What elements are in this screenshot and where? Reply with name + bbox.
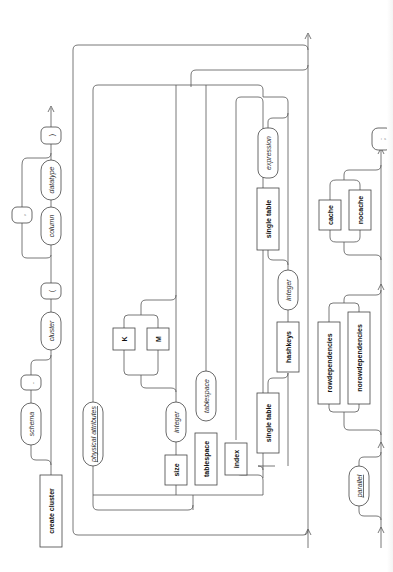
create-cluster-keyword: create cluster [40,475,62,547]
dot-symbol: . [21,375,41,390]
svg-text:tablespace: tablespace [203,441,211,477]
svg-text:integer: integer [285,279,293,301]
schema-nonterminal: schema [21,403,41,445]
norowdependencies-keyword: norowdependencies [348,312,370,404]
unit-m-keyword: M [147,328,169,350]
cluster-nonterminal: cluster [41,312,61,350]
page-edge-shadow [387,0,393,572]
row-3-clause: parallel rowdependencies norowdependenci… [318,128,392,548]
hashkeys-integer-nonterminal: integer [278,270,298,310]
svg-text:single table: single table [265,200,273,239]
create-cluster-railroad-diagram: create cluster schema . cluster ( column [0,0,393,572]
row-1-clause: create cluster schema . cluster ( column [12,106,62,547]
svg-text:cluster: cluster [48,320,55,341]
svg-text:rowdependencies: rowdependencies [326,333,334,392]
nocache-keyword: nocache [349,190,371,230]
svg-text:index: index [233,450,240,468]
row-2-clause: physical attributes size integer K M tab… [73,33,311,548]
tablespace-keyword: tablespace [195,433,217,485]
expression-nonterminal: expression [258,128,278,178]
svg-text:M: M [155,336,162,342]
svg-text:): ) [48,134,56,136]
rowdependencies-keyword: rowdependencies [318,322,340,404]
physical-attributes-nonterminal: physical attributes [83,402,103,466]
unit-k-keyword: K [113,328,135,350]
svg-text:create cluster: create cluster [48,488,55,534]
parallel-nonterminal: parallel [349,466,369,506]
svg-text:norowdependencies: norowdependencies [356,324,364,392]
svg-text:;: ; [379,138,386,140]
open-paren-symbol: ( [41,283,61,299]
svg-text:K: K [121,336,128,341]
svg-text:parallel: parallel [356,474,364,498]
hashkeys-keyword: hashkeys [277,322,299,372]
svg-text:expression: expression [265,136,273,170]
svg-text:nocache: nocache [357,196,364,225]
single-table-keyword-1: single table [257,393,279,453]
svg-text:column: column [48,215,55,238]
single-table-keyword-2: single table [257,188,279,250]
comma-symbol: , [12,207,32,223]
close-paren-symbol: ) [41,127,61,144]
size-integer-nonterminal: integer [166,402,186,442]
tablespace-nonterminal: tablespace [196,371,216,421]
svg-text:hashkeys: hashkeys [285,331,293,363]
svg-text:cache: cache [327,205,334,225]
svg-text:schema: schema [28,412,35,437]
datatype-nonterminal: datatype [41,160,61,200]
column-nonterminal: column [41,207,61,245]
svg-text:single table: single table [265,404,273,443]
svg-text:integer: integer [173,411,181,433]
svg-text:tablespace: tablespace [203,379,211,413]
cache-keyword: cache [319,200,341,230]
svg-text:size: size [173,463,180,476]
index-keyword: index [225,443,247,475]
svg-text:,: , [19,214,26,216]
svg-text:.: . [28,382,35,384]
svg-text:datatype: datatype [48,166,56,193]
svg-text:physical attributes: physical attributes [90,405,98,463]
size-keyword: size [165,455,187,485]
